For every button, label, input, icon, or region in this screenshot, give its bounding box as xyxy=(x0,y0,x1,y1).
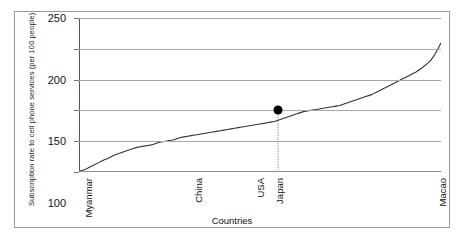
y-tick-50: 50 xyxy=(74,141,79,142)
gridline-100 xyxy=(79,110,441,111)
y-tick-100: 100 xyxy=(74,110,79,111)
japan-data-point-marker xyxy=(274,106,283,115)
japan-dropline xyxy=(278,110,279,172)
y-tick-label-150: 150 xyxy=(48,135,66,147)
x-category-label-china: China xyxy=(193,178,204,203)
x-category-label-usa: USA xyxy=(255,178,266,198)
x-category-label-myanmar: Myanmar xyxy=(83,178,94,218)
y-tick-label-250: 250 xyxy=(48,12,66,24)
y-tick-200: 200 xyxy=(74,49,79,50)
x-axis-title: Countries xyxy=(15,215,449,226)
gridline-250 xyxy=(79,18,441,19)
x-axis-line xyxy=(79,171,441,172)
line-series-path xyxy=(79,18,441,172)
y-axis-title: Subscription rate to cell phone services… xyxy=(27,16,41,206)
y-tick-label-200: 200 xyxy=(48,74,66,86)
gridline-50 xyxy=(79,141,441,142)
gridline-200 xyxy=(79,49,441,50)
y-axis-line xyxy=(79,18,80,172)
gridline-150 xyxy=(79,80,441,81)
x-category-label-macao: Macao xyxy=(437,178,448,207)
y-tick-label-100: 100 xyxy=(48,197,66,209)
chart-figure: Subscription rate to cell phone services… xyxy=(14,11,450,228)
x-category-label-japan: Japan xyxy=(274,178,285,204)
y-tick-0: 0 xyxy=(74,172,79,173)
plot-area: 050100150200250 MyanmarChinaUSAJapanMaca… xyxy=(79,18,441,172)
y-tick-150: 150 xyxy=(74,80,79,81)
y-tick-250: 250 xyxy=(74,18,79,19)
